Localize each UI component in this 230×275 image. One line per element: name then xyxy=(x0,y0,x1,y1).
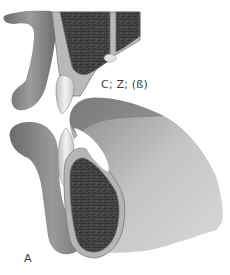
upper-cartilage-nub xyxy=(104,54,116,62)
anatomical-figure xyxy=(0,0,230,275)
panel-label: A xyxy=(24,252,32,265)
upper-articular-cartilage xyxy=(56,75,74,114)
upper-left-bone xyxy=(3,11,56,111)
joint-annotation-label: C; Z; (ß) xyxy=(101,78,148,91)
